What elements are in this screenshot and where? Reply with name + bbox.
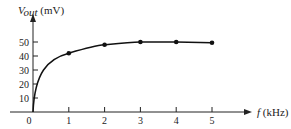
x-tick-label: 1 (66, 115, 71, 126)
data-point-marker (210, 40, 215, 45)
x-axis (10, 109, 252, 115)
data-point-marker (67, 51, 72, 56)
y-tick-label: 30 (19, 65, 29, 76)
x-tick-label: 0 (27, 115, 32, 126)
data-point-marker (138, 40, 143, 45)
x-tick-label: 2 (102, 115, 107, 126)
x-tick-label: 5 (210, 115, 215, 126)
chart-canvas: 1020304050 012345 Vout (mV) f (kHz) (0, 0, 291, 129)
y-tick-label: 40 (19, 51, 29, 62)
y-tick-label: 50 (19, 37, 29, 48)
y-tick-label: 20 (19, 79, 29, 90)
x-axis-arrow-icon (244, 109, 252, 115)
frequency-response-chart: 1020304050 012345 Vout (mV) f (kHz) (0, 0, 291, 129)
y-tick-label: 10 (19, 93, 29, 104)
x-tick-label: 3 (138, 115, 143, 126)
data-point-marker (102, 43, 107, 48)
x-axis-label: f (kHz) (257, 106, 289, 119)
y-axis-label: Vout (mV) (18, 4, 64, 18)
vout-curve (33, 42, 212, 112)
x-tick-label: 4 (174, 115, 179, 126)
x-ticks: 012345 (27, 107, 215, 126)
data-point-marker (174, 40, 179, 45)
